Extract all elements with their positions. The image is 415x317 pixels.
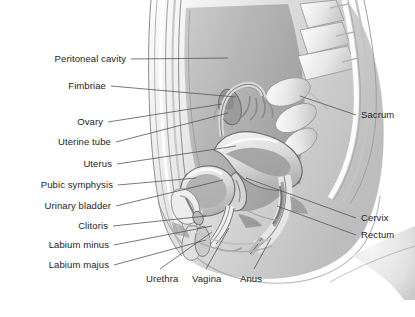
label-uterine-tube: Uterine tube [58, 136, 111, 147]
label-urinary-bladder: Urinary bladder [45, 200, 111, 211]
label-vagina: Vagina [192, 273, 221, 284]
label-cervix: Cervix [361, 212, 389, 223]
label-labium-majus: Labium majus [49, 259, 109, 270]
label-urethra: Urethra [146, 273, 178, 284]
label-rectum: Rectum [361, 229, 394, 240]
label-peritoneal-cavity: Peritoneal cavity [55, 53, 126, 64]
label-labium-minus: Labium minus [49, 239, 109, 250]
label-pubic-symphysis: Pubic symphysis [41, 179, 113, 190]
label-clitoris: Clitoris [78, 220, 108, 231]
label-sacrum: Sacrum [361, 109, 394, 120]
label-anus: Anus [240, 273, 262, 284]
label-uterus: Uterus [83, 158, 112, 169]
label-fimbriae: Fimbriae [68, 80, 106, 91]
label-ovary: Ovary [77, 116, 103, 127]
